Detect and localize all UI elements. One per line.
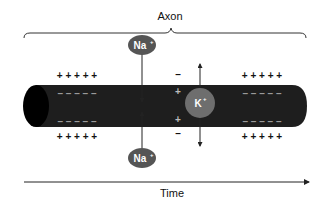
local-charge-bottom-inner: + xyxy=(175,114,181,125)
svg-text:Na: Na xyxy=(134,153,147,164)
inner-charges-right-top: – – – – – xyxy=(243,88,282,99)
na-ion-top: Na + xyxy=(128,35,156,55)
svg-text:+: + xyxy=(150,39,154,45)
svg-text:+: + xyxy=(150,152,154,158)
outer-charges-right-top: + + + + + xyxy=(242,70,282,81)
axon-diagram: Axon + + + + + – – – – – – – – – – + + +… xyxy=(0,0,326,202)
local-charge-top-outer: – xyxy=(175,69,181,80)
outer-charges-left-bottom: + + + + + xyxy=(57,131,97,142)
outer-charges-right-bottom: + + + + + xyxy=(242,131,282,142)
k-ion: K + xyxy=(185,88,215,118)
na-ion-bottom: Na + xyxy=(128,148,156,168)
local-charge-top-inner: + xyxy=(175,86,181,97)
inner-charges-left-bottom: – – – – – xyxy=(58,116,97,127)
time-axis-label: Time xyxy=(160,187,184,199)
local-charge-bottom-outer: – xyxy=(175,128,181,139)
axon-brace xyxy=(24,28,306,38)
svg-text:Na: Na xyxy=(134,40,147,51)
axon-end-cap xyxy=(23,85,49,127)
axon-title: Axon xyxy=(157,10,182,22)
svg-text:K: K xyxy=(194,98,202,109)
inner-charges-right-bottom: – – – – – xyxy=(243,116,282,127)
svg-text:+: + xyxy=(203,96,207,102)
outer-charges-left-top: + + + + + xyxy=(57,70,97,81)
inner-charges-left-top: – – – – – xyxy=(58,88,97,99)
